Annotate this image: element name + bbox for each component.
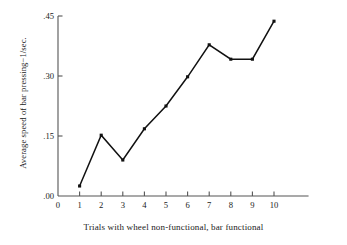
data-point <box>229 58 232 61</box>
data-point <box>186 75 189 78</box>
data-point <box>251 58 254 61</box>
data-point <box>164 104 167 107</box>
data-series <box>80 21 274 186</box>
plot-area <box>0 0 347 245</box>
data-point <box>143 127 146 130</box>
data-point <box>208 43 211 46</box>
chart-figure: Average speed of bar pressing−1/sec. .00… <box>0 0 347 245</box>
x-axis-title: Trials with wheel non-functional, bar fu… <box>0 222 347 232</box>
axes <box>58 16 309 196</box>
data-line <box>80 21 274 186</box>
data-point <box>100 134 103 137</box>
data-point <box>121 158 124 161</box>
data-point <box>272 20 275 23</box>
data-markers <box>78 20 276 188</box>
data-point <box>78 184 81 187</box>
